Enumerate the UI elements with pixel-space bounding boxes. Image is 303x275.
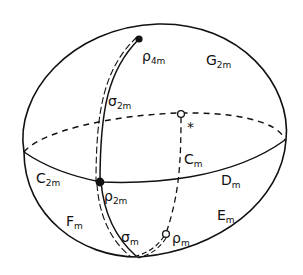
c-m-arc (166, 117, 181, 233)
point-star (178, 111, 185, 118)
label-sigma-m: σm (121, 229, 139, 247)
point-rho-2m (96, 178, 105, 187)
label-sigma-2m: σ2m (108, 93, 131, 111)
label-e-m: Em (217, 207, 235, 225)
equator-front (24, 140, 285, 182)
label-star: * (187, 119, 194, 135)
label-rho-2m: ρ2m (104, 188, 127, 206)
equator-back (24, 113, 285, 152)
label-c-m: Cm (184, 151, 203, 169)
label-c-2m: C2m (36, 170, 60, 188)
label-g-2m: G2m (206, 52, 231, 70)
label-rho-m: ρm (172, 230, 190, 248)
sphere-diagram: ρ4m G2m σ2m * Cm C2m Dm ρ2m Fm Em σm ρm (0, 0, 303, 275)
label-rho-4m: ρ4m (142, 48, 165, 66)
point-rho-m (163, 231, 170, 238)
label-f-m: Fm (66, 213, 83, 231)
label-d-m: Dm (221, 172, 241, 190)
point-rho-4m (135, 35, 142, 42)
